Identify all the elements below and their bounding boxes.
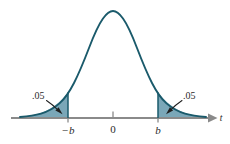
tick-label-b: b <box>155 124 161 136</box>
tick-label-negative-b: −b <box>62 124 75 136</box>
axis-label-t: t <box>220 113 223 123</box>
right-tail-probability-label: .05 <box>183 90 196 101</box>
normal-curve-chart: .05 .05 −b 0 b t <box>0 0 230 144</box>
left-tail-probability-label: .05 <box>32 90 45 101</box>
axis-arrowhead-icon <box>208 114 218 123</box>
tick-label-zero: 0 <box>110 123 116 135</box>
distribution-figure: .05 .05 −b 0 b t <box>0 0 230 144</box>
